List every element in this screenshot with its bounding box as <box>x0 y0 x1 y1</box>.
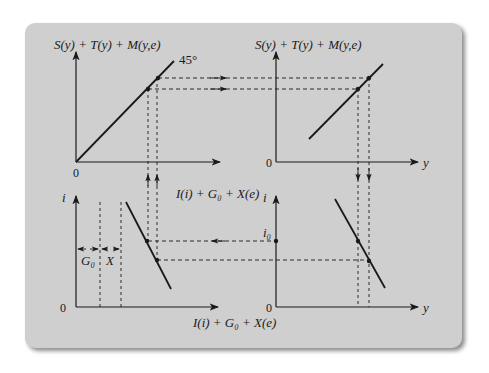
x-label: X <box>105 253 115 268</box>
top-left-quadrant <box>76 52 226 260</box>
intersection-points <box>145 76 371 263</box>
bottom-left-x-label: I(i) + G₀ + X(e) <box>192 315 276 330</box>
supply-line <box>309 64 383 139</box>
bottom-left-quadrant <box>76 196 369 307</box>
top-right-quadrant <box>276 52 418 307</box>
bottom-right-y-label: i <box>263 190 267 205</box>
i0-label: i₀ <box>263 225 271 240</box>
bottom-right-origin: 0 <box>266 301 272 315</box>
bottom-right-x-label: y <box>421 300 429 315</box>
bottom-left-y-label: i <box>62 190 66 205</box>
curve-label: I(i) + G₀ + X(e) <box>175 186 259 201</box>
is-curve <box>335 199 385 288</box>
angle-label: 45° <box>179 52 197 67</box>
top-left-origin: 0 <box>73 166 79 180</box>
four-quadrant-diagram: S(y) + T(y) + M(y,e) 0 45° S(y) + T(y) +… <box>0 0 489 373</box>
top-right-x-label: y <box>421 155 429 170</box>
45-degree-line <box>76 61 174 162</box>
bottom-right-quadrant <box>276 196 418 307</box>
top-right-origin: 0 <box>266 156 272 170</box>
g0-label: G₀ <box>81 253 95 268</box>
bottom-left-origin: 0 <box>60 301 66 315</box>
demand-line <box>126 202 171 289</box>
top-left-y-label: S(y) + T(y) + M(y,e) <box>54 37 161 52</box>
top-right-y-label: S(y) + T(y) + M(y,e) <box>255 37 362 52</box>
